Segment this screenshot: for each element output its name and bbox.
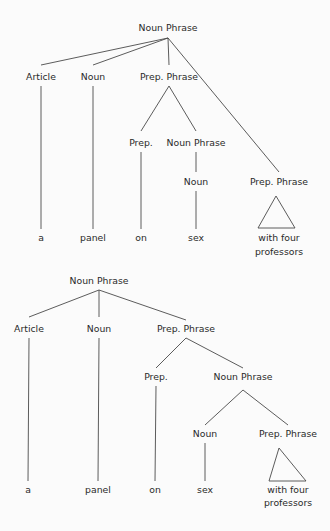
node-label-professors: professors bbox=[255, 246, 303, 257]
node-label-with-four: with four bbox=[258, 232, 300, 243]
tree-edge bbox=[99, 290, 186, 320]
tree-edge bbox=[169, 86, 196, 131]
node-label-article: Article bbox=[26, 71, 56, 82]
tree-edge bbox=[98, 338, 99, 481]
node-label-with-four: with four bbox=[267, 484, 309, 495]
node-label-article: Article bbox=[14, 323, 44, 334]
syntax-tree-diagram: Noun PhraseArticleNounPrep. PhrasePrep.N… bbox=[0, 0, 330, 531]
node-label-noun-phrase: Noun Phrase bbox=[70, 275, 129, 286]
tree-edge bbox=[156, 338, 186, 368]
tree-edge bbox=[141, 86, 169, 131]
node-label-sex: sex bbox=[197, 484, 213, 495]
node-label-prep: Prep. bbox=[129, 137, 153, 148]
tree-attachment-to-inner-noun-phrase: Noun PhraseArticleNounPrep. PhrasePrep.N… bbox=[14, 275, 317, 508]
node-label-noun: Noun bbox=[81, 71, 106, 82]
node-label-noun-phrase: Noun Phrase bbox=[139, 22, 198, 33]
tree-attachment-to-noun-phrase: Noun PhraseArticleNounPrep. PhrasePrep.N… bbox=[26, 22, 308, 257]
node-label-on: on bbox=[135, 232, 147, 243]
tree-edge bbox=[186, 338, 243, 368]
tree-edge bbox=[205, 390, 243, 425]
node-label-noun-phrase: Noun Phrase bbox=[167, 137, 226, 148]
tree-edge bbox=[29, 290, 99, 317]
node-label-professors: professors bbox=[264, 497, 312, 508]
tree-edge bbox=[155, 386, 156, 481]
node-label-noun: Noun bbox=[193, 428, 218, 439]
node-label-noun-phrase: Noun Phrase bbox=[214, 371, 273, 382]
node-label-prep-phrase: Prep. Phrase bbox=[140, 71, 198, 82]
node-label-noun: Noun bbox=[87, 323, 112, 334]
node-label-noun: Noun bbox=[184, 176, 209, 187]
node-label-a: a bbox=[38, 232, 44, 243]
node-label-prep-phrase: Prep. Phrase bbox=[250, 176, 308, 187]
tree-edge bbox=[168, 38, 169, 65]
node-label-prep-phrase: Prep. Phrase bbox=[157, 323, 215, 334]
node-label-prep-phrase: Prep. Phrase bbox=[259, 428, 317, 439]
tree-edge bbox=[243, 390, 288, 425]
tree-edge bbox=[28, 338, 29, 481]
tree-canvas: Noun PhraseArticleNounPrep. PhrasePrep.N… bbox=[0, 0, 330, 531]
tree-edge bbox=[168, 38, 279, 172]
node-label-prep: Prep. bbox=[144, 371, 168, 382]
collapsed-subtree-triangle bbox=[258, 196, 295, 228]
node-label-panel: panel bbox=[80, 232, 106, 243]
node-label-on: on bbox=[149, 484, 161, 495]
node-label-a: a bbox=[25, 484, 31, 495]
node-label-sex: sex bbox=[188, 232, 204, 243]
node-label-panel: panel bbox=[85, 484, 111, 495]
collapsed-subtree-triangle bbox=[269, 448, 306, 481]
